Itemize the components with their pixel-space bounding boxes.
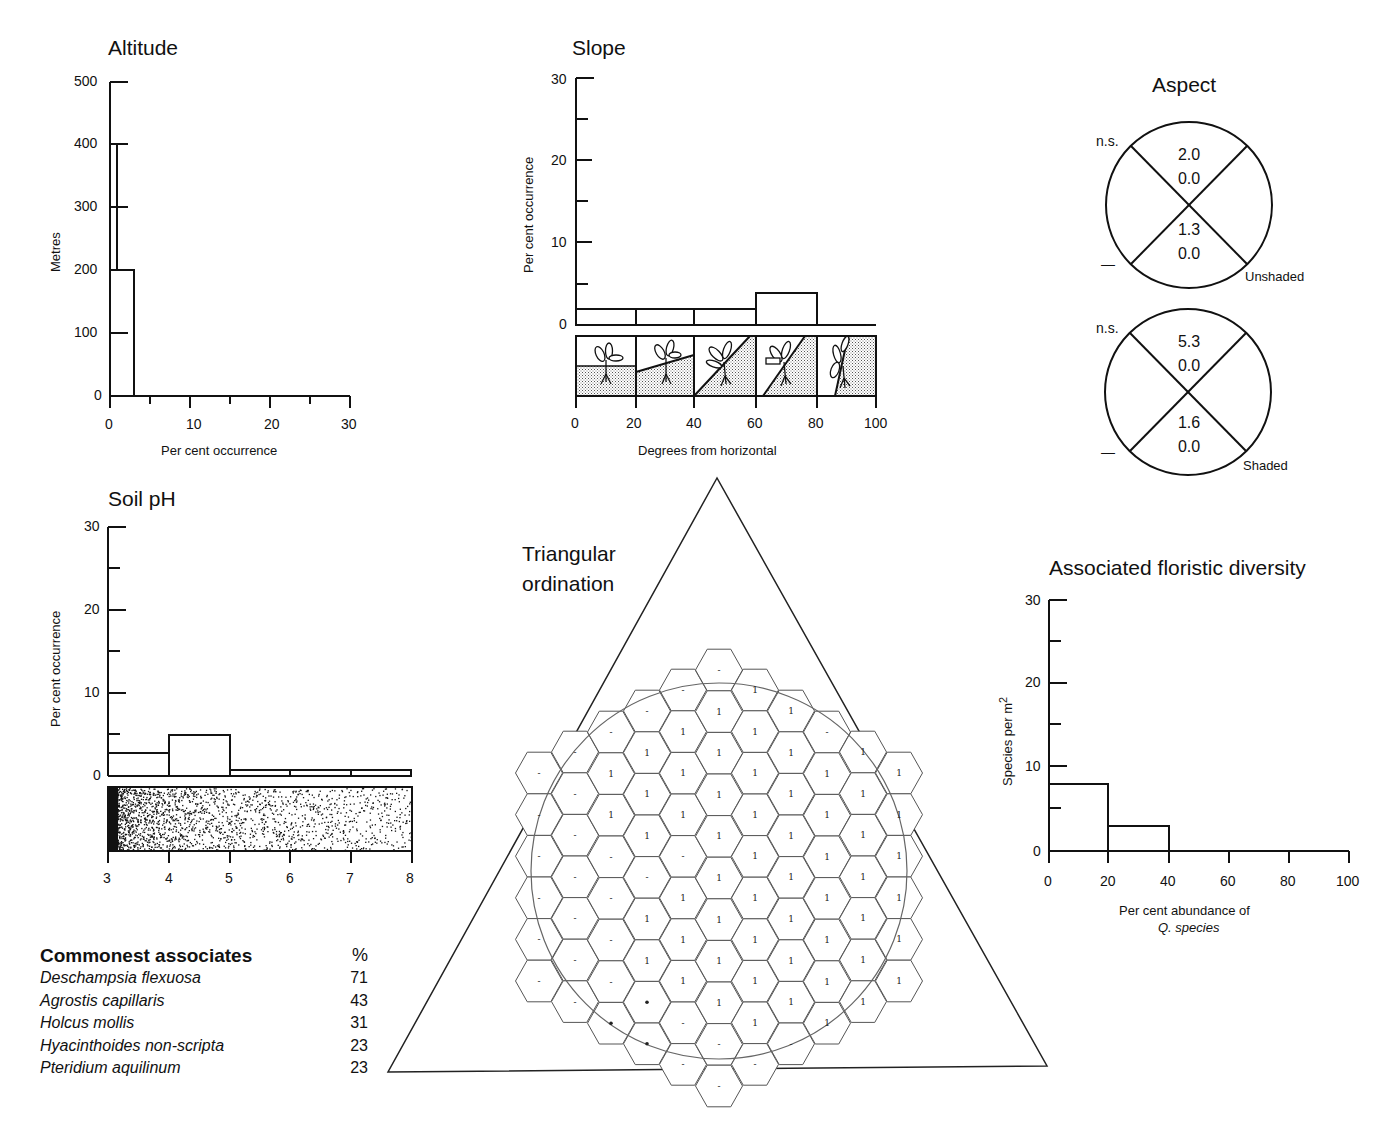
hex-cell-value: 1 [788, 872, 794, 882]
hex-cell-value: 1 [644, 789, 650, 799]
hex-cell-value: 1 [752, 893, 758, 903]
hex-cell-value: - [537, 810, 540, 820]
hex-cell-value: 1 [860, 747, 866, 757]
hex-cell-value: 1 [824, 852, 830, 862]
hex-cell-value: - [573, 913, 576, 923]
hex-cell-value: 1 [752, 851, 758, 861]
hex-cell-value: 1 [752, 1018, 758, 1028]
hex-cell-value: 1 [716, 998, 722, 1008]
hex-cell-value: 1 [716, 748, 722, 758]
hex-cell-value: 1 [716, 831, 722, 841]
hex-cell-value: 1 [716, 790, 722, 800]
hex-cell-value: 1 [824, 1018, 830, 1028]
hex-cell-value: 1 [788, 997, 794, 1007]
hex-cell-value: 1 [680, 768, 686, 778]
hex-cell-value: 1 [860, 955, 866, 965]
hex-cell-value: - [573, 955, 576, 965]
hex-cell-value: 1 [788, 748, 794, 758]
hex-cell-value: 1 [752, 976, 758, 986]
hex-cell-value: 1 [644, 956, 650, 966]
hex-cell-value: - [537, 976, 540, 986]
soil-ph-gradient-bar [108, 787, 412, 863]
hex-cell-value: - [609, 852, 612, 862]
hex-cell-value: 1 [716, 873, 722, 883]
hex-cell-value: - [573, 747, 576, 757]
hex-cell-value: - [537, 934, 540, 944]
hex-cell-value: - [789, 1039, 792, 1049]
hex-cell-value: - [573, 789, 576, 799]
hex-cell-value: 1 [752, 768, 758, 778]
hex-cell-value: - [573, 997, 576, 1007]
soil-ph-bars [108, 735, 411, 776]
hex-cell-value: - [537, 893, 540, 903]
hex-cell-value: 1 [860, 830, 866, 840]
hex-cell-value: 1 [644, 831, 650, 841]
hex-cell-value: 1 [716, 956, 722, 966]
hex-cell-value: - [537, 768, 540, 778]
hex-cell-value: 1 [896, 976, 902, 986]
hex-cell-value: 1 [860, 872, 866, 882]
hex-cell-value: 1 [788, 956, 794, 966]
hex-cell-value: - [573, 830, 576, 840]
hex-cell-value: 1 [680, 810, 686, 820]
hex-cell-value: 1 [788, 831, 794, 841]
hex-cell-value: - [825, 727, 828, 737]
hex-dot-icon [645, 1042, 649, 1046]
hex-cell-value: - [717, 665, 720, 675]
altitude-bars [110, 144, 134, 396]
hex-cell-value: 1 [896, 810, 902, 820]
hex-cell-value: - [573, 872, 576, 882]
hex-cell-value: 1 [788, 706, 794, 716]
hex-cell-value: 1 [896, 893, 902, 903]
hex-cell-value: 1 [824, 893, 830, 903]
hex-cell-value: - [681, 851, 684, 861]
hex-dot-icon [645, 1000, 649, 1004]
diversity-axes [1049, 600, 1349, 863]
hex-cell-value: - [537, 851, 540, 861]
hex-cell-value: - [681, 685, 684, 695]
hex-cell-value: 1 [680, 935, 686, 945]
hex-cell-value: 1 [608, 810, 614, 820]
hex-cell-value: 1 [860, 789, 866, 799]
hex-cell-value: 1 [860, 913, 866, 923]
hex-cell-value: - [645, 872, 648, 882]
hex-cell-value: 1 [752, 727, 758, 737]
hex-cell-value: 1 [608, 769, 614, 779]
hex-cell-value: 1 [824, 769, 830, 779]
hex-cell-value: 1 [716, 915, 722, 925]
hex-cell-value: 1 [896, 934, 902, 944]
aspect-unshaded-circle [1106, 122, 1272, 288]
hex-cell-value: 1 [860, 997, 866, 1007]
hex-cell-value: 1 [644, 914, 650, 924]
hex-cell-value: 1 [680, 976, 686, 986]
hex-cell-value: 1 [824, 935, 830, 945]
hex-cell-value: 1 [752, 685, 758, 695]
hex-cell-value: 1 [824, 810, 830, 820]
hex-cell-value: 1 [896, 851, 902, 861]
hex-cell-value: - [609, 977, 612, 987]
hex-cell-value: 1 [680, 893, 686, 903]
soil-ph-axes [108, 527, 412, 776]
hex-cell-value: 1 [788, 914, 794, 924]
hex-cell-value: - [609, 893, 612, 903]
altitude-axes [110, 82, 350, 408]
slope-bars [576, 293, 817, 325]
hex-cell-value: - [681, 1059, 684, 1069]
hex-cell-value: 1 [752, 810, 758, 820]
hex-cell-value: - [717, 1039, 720, 1049]
hex-cell-value: 1 [680, 727, 686, 737]
hex-cell-value: - [681, 1018, 684, 1028]
hex-cell-value: - [717, 1081, 720, 1091]
hex-cell-value: - [609, 727, 612, 737]
figure-graphics: --------------11-----111-11-111-111---11… [0, 0, 1396, 1134]
hex-cell-value: 1 [644, 748, 650, 758]
hex-cell-value: - [645, 706, 648, 716]
hex-cell-value: - [609, 935, 612, 945]
hex-cell-value: 1 [824, 977, 830, 987]
slope-axes [576, 78, 876, 325]
hex-cell-value: 1 [716, 707, 722, 717]
hex-cell-value: 1 [788, 789, 794, 799]
hex-cell-value: 1 [896, 768, 902, 778]
hex-cell-value: 1 [752, 935, 758, 945]
diversity-bars [1049, 784, 1169, 851]
